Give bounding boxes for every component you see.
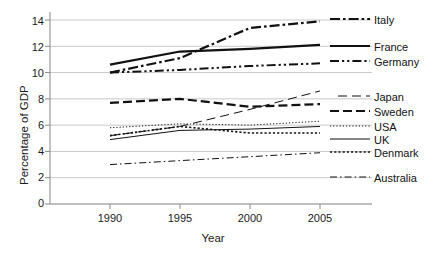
series-label-usa: USA xyxy=(374,121,397,133)
series-line-uk xyxy=(110,126,320,139)
series-label-sweden: Sweden xyxy=(374,106,414,118)
series-line-germany xyxy=(110,63,320,72)
series-lines xyxy=(110,21,320,164)
series-label-germany: Germany xyxy=(374,56,419,68)
gridlines xyxy=(50,20,372,204)
y-tick-label-14: 14 xyxy=(24,15,44,27)
axis-lines xyxy=(50,12,372,204)
series-label-australia: Australia xyxy=(374,172,417,184)
x-tick-label-1995: 1995 xyxy=(156,212,204,224)
y-tick-label-10: 10 xyxy=(24,67,44,79)
y-axis-title: Percentage of GDP xyxy=(18,85,30,185)
series-line-australia xyxy=(110,153,320,165)
series-line-sweden xyxy=(110,99,320,107)
plot-area xyxy=(0,0,434,258)
series-line-usa xyxy=(110,121,320,128)
y-tick-label-0: 0 xyxy=(24,197,44,209)
series-label-italy: Italy xyxy=(374,14,394,26)
legend-line-samples xyxy=(330,19,370,177)
series-label-uk: UK xyxy=(374,134,389,146)
x-tick-label-2000: 2000 xyxy=(226,212,274,224)
series-line-france xyxy=(110,45,320,65)
series-label-japan: Japan xyxy=(374,91,404,103)
series-label-france: France xyxy=(374,41,408,53)
x-tick-label-1990: 1990 xyxy=(86,212,134,224)
series-label-denmark: Denmark xyxy=(374,147,419,159)
y-tick-label-12: 12 xyxy=(24,41,44,53)
x-tick-label-2005: 2005 xyxy=(296,212,344,224)
line-chart: 14 12 10 8 6 4 2 0 1990 1995 2000 2005 P… xyxy=(0,0,434,258)
x-axis-title: Year xyxy=(93,232,333,244)
